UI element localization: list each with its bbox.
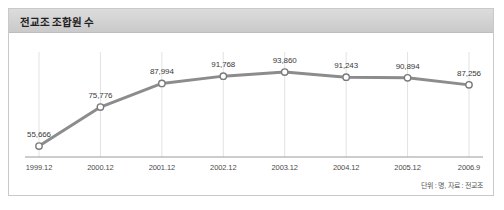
data-point-marker [220, 73, 226, 79]
data-point-marker [282, 69, 288, 75]
x-axis-tick-label: 2002.12 [210, 163, 236, 172]
data-point-marker [404, 75, 410, 81]
data-point-label: 90,894 [396, 62, 420, 71]
x-axis-tick-label: 2000.12 [87, 163, 113, 172]
data-point-label: 91,768 [211, 60, 235, 69]
data-point-marker [36, 143, 42, 149]
x-axis-tick-label: 2006.9 [458, 163, 480, 172]
x-axis-tick-label: 2003.12 [271, 163, 297, 172]
data-point-marker [343, 74, 349, 80]
line-chart-svg [9, 34, 495, 197]
x-axis-tick-label: 2005.12 [394, 163, 420, 172]
x-axis-tick-label: 1999.12 [26, 163, 52, 172]
data-point-marker [97, 104, 103, 110]
chart-card: 전교조 조합원 수 55,66675,77687,99491,76893,860… [8, 8, 494, 196]
x-axis-tick-label: 2001.12 [149, 163, 175, 172]
data-point-label: 75,776 [88, 91, 112, 100]
chart-footnote: 단위 : 명, 자료 : 전교조 [421, 180, 483, 190]
data-point-label: 87,256 [457, 69, 481, 78]
data-point-marker [466, 82, 472, 88]
data-point-label: 93,860 [273, 56, 297, 65]
chart-title-bar: 전교조 조합원 수 [9, 9, 493, 33]
chart-plot-area: 55,66675,77687,99491,76893,86091,24390,8… [9, 34, 493, 195]
x-axis-tick-label: 2004.12 [333, 163, 359, 172]
page-title: 전교조 조합원 수 [20, 14, 94, 29]
data-point-label: 55,666 [27, 130, 51, 139]
data-point-label: 87,994 [150, 67, 174, 76]
data-point-label: 91,243 [334, 61, 358, 70]
data-point-marker [159, 80, 165, 86]
